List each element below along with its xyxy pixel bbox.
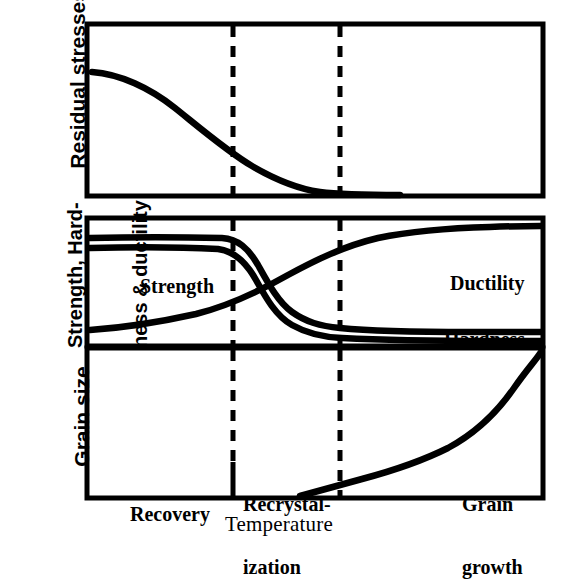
x-axis-title-text: Temperature xyxy=(225,512,333,536)
curve-label-hardness: Hardness xyxy=(424,305,525,374)
zone-label-recrystalization-line-2: ization xyxy=(243,557,331,578)
panel-1-y-axis-label: Residual stresses xyxy=(44,0,112,192)
zone-label-grain-growth-line-2: growth xyxy=(462,557,523,578)
curve-residual-stresses xyxy=(92,72,400,195)
zone-label-grain-growth-line-1: Grain xyxy=(462,494,523,515)
zone-label-grain-growth: Grain growth xyxy=(462,452,523,583)
zone-boundary-lines xyxy=(233,26,340,497)
zone-label-recovery: Recovery xyxy=(130,462,210,567)
zone-label-recovery-line-1: Recovery xyxy=(130,504,210,525)
panel-3-y-axis-label: Grain size xyxy=(48,366,116,490)
panel-1-y-axis-label-text: Residual stresses xyxy=(66,0,89,169)
curve-label-strength: Strength xyxy=(120,252,214,321)
panel-2-y-axis-label-line-1: Strength, Hard- xyxy=(65,198,87,348)
panel-3-y-axis-label-text: Grain size xyxy=(70,366,93,466)
panel-1-border xyxy=(87,24,543,196)
x-axis-title: Temperature xyxy=(225,512,333,537)
curve-label-hardness-text: Hardness xyxy=(444,328,525,350)
curve-label-ductility-text: Ductility xyxy=(450,272,524,294)
curve-label-strength-text: Strength xyxy=(140,275,214,297)
panel-residual-stresses-frame xyxy=(87,24,543,196)
